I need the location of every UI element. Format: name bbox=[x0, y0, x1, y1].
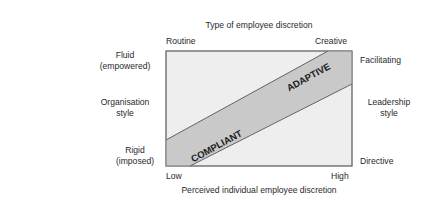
right-facilitating: Facilitating bbox=[360, 55, 401, 66]
top-axis-title: Type of employee discretion bbox=[166, 20, 352, 31]
bottom-axis-high: High bbox=[331, 171, 349, 182]
left-rigid-line1: Rigid bbox=[110, 145, 160, 156]
left-axis-title-line1: Organisation bbox=[90, 97, 160, 108]
right-axis-title-line1: Leadership bbox=[356, 97, 422, 108]
bottom-axis-title: Perceived individual employee discretion bbox=[166, 185, 352, 196]
left-rigid-line2: (imposed) bbox=[110, 156, 160, 167]
right-directive: Directive bbox=[360, 156, 393, 167]
left-fluid-line1: Fluid bbox=[95, 50, 155, 61]
bottom-axis-low: Low bbox=[166, 171, 182, 182]
right-axis-title-line2: style bbox=[356, 108, 422, 119]
left-axis-title-line2: style bbox=[90, 108, 160, 119]
left-fluid-line2: (empowered) bbox=[95, 61, 155, 72]
top-axis-creative: Creative bbox=[315, 36, 347, 47]
top-axis-routine: Routine bbox=[166, 36, 196, 47]
